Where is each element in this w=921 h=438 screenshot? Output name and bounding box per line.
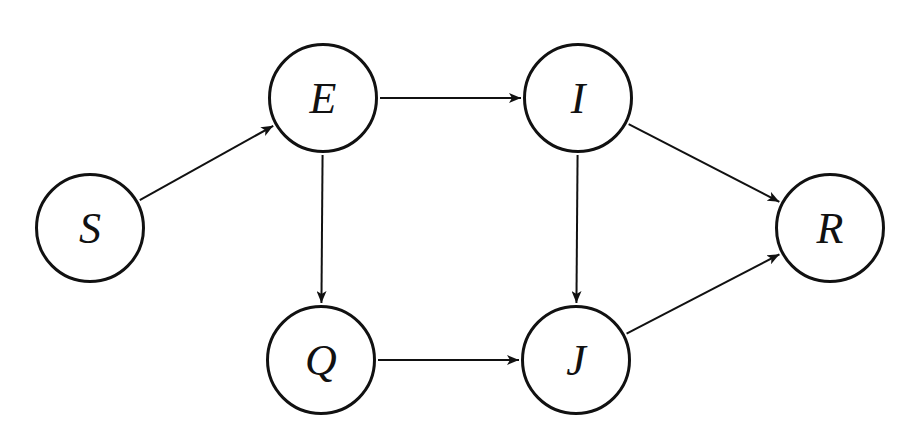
node-label: E xyxy=(310,77,337,121)
node-q: Q xyxy=(266,305,376,415)
edge-s-to-e xyxy=(140,126,273,200)
node-label: I xyxy=(571,77,586,121)
node-label: R xyxy=(817,207,844,251)
node-s: S xyxy=(35,173,145,283)
node-e: E xyxy=(268,43,378,153)
node-i: I xyxy=(523,43,633,153)
edge-e-to-q xyxy=(321,155,322,303)
edge-i-to-j xyxy=(576,155,577,303)
node-j: J xyxy=(521,305,631,415)
node-label: S xyxy=(79,207,101,251)
node-label: Q xyxy=(305,339,337,383)
graph-diagram: S E I Q J R xyxy=(0,0,921,438)
edge-j-to-r xyxy=(627,254,780,333)
node-r: R xyxy=(775,173,885,283)
node-label: J xyxy=(566,339,586,383)
edge-i-to-r xyxy=(629,124,780,202)
